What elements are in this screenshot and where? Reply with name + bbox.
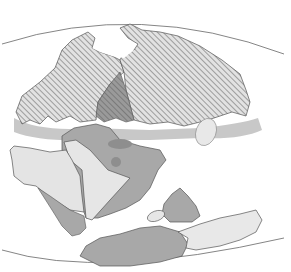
dark-blob-1 [108,139,132,149]
paleogeographic-map [0,0,291,272]
southern-fragment-large [80,226,188,266]
southeast-fragment [162,188,200,222]
northern-landmass-east [120,24,250,126]
dark-blob-2 [111,157,121,167]
